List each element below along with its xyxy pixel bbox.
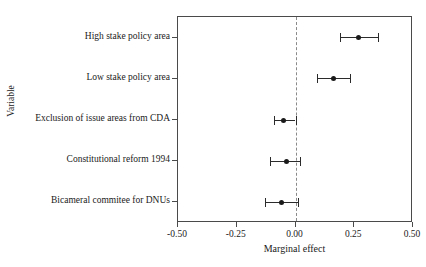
x-axis-tick-label: 0.00 (275, 229, 315, 239)
estimate-point (356, 35, 361, 40)
ci-cap-high (378, 33, 379, 42)
y-axis-label-5: Bicameral commitee for DNUs (0, 195, 170, 205)
ci-cap-high (300, 157, 301, 166)
y-axis-tick (172, 201, 177, 202)
y-axis-tick (172, 37, 177, 38)
x-axis-tick (177, 222, 178, 227)
ci-cap-low (270, 157, 271, 166)
y-axis-tick (172, 119, 177, 120)
x-axis-title: Marginal effect (177, 243, 412, 254)
y-axis-tick-labels: High stake policy areaLow stake policy a… (0, 0, 170, 267)
estimate-point (331, 76, 336, 81)
x-axis-tick-label: -0.25 (216, 229, 256, 239)
ci-cap-low (265, 198, 266, 207)
x-axis-tick-label: 0.25 (333, 229, 373, 239)
x-axis-tick (295, 222, 296, 227)
x-axis-tick-label: 0.50 (392, 229, 426, 239)
x-axis-tick-label: -0.50 (157, 229, 197, 239)
ci-cap-high (296, 116, 297, 125)
ci-cap-high (350, 74, 351, 83)
estimate-point (281, 118, 286, 123)
x-axis-tick (412, 222, 413, 227)
y-axis-tick (172, 78, 177, 79)
coefficient-plot: Variable High stake policy areaLow stake… (0, 0, 426, 267)
y-axis-tick (172, 160, 177, 161)
ci-cap-high (298, 198, 299, 207)
x-axis-tick (236, 222, 237, 227)
estimate-point (284, 159, 289, 164)
plot-panel (177, 16, 412, 222)
ci-cap-low (274, 116, 275, 125)
x-axis-tick (353, 222, 354, 227)
y-axis-label-1: High stake policy area (0, 31, 170, 41)
ci-cap-low (317, 74, 318, 83)
y-axis-label-2: Low stake policy area (0, 72, 170, 82)
y-axis-label-4: Constitutional reform 1994 (0, 154, 170, 164)
ci-cap-low (340, 33, 341, 42)
y-axis-label-3: Exclusion of issue areas from CDA (0, 113, 170, 123)
estimate-point (279, 200, 284, 205)
